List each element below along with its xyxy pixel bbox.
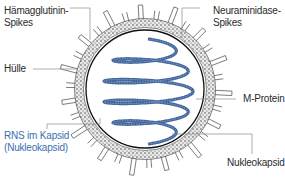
label-rna-line2: (Nukleokapsid) [4, 142, 69, 154]
label-envelope: Hülle [4, 63, 26, 75]
label-rna: RNS im Kapsid (Nukleokapsid) [4, 130, 69, 154]
label-neuraminidase-line2: Spikes [213, 17, 281, 29]
label-hemagglutinin-line2: Spikes [4, 17, 68, 29]
m-protein-layer [86, 30, 204, 148]
label-hemagglutinin: Hämagglutinin- Spikes [4, 5, 68, 29]
label-neuraminidase-line1: Neuraminidase- [213, 5, 281, 17]
label-hemagglutinin-line1: Hämagglutinin- [4, 5, 68, 17]
label-nucleocapsid: Nukleokapsid [227, 157, 285, 169]
label-m-protein: M-Protein [243, 93, 285, 105]
leader-hemagglutinin [70, 8, 90, 40]
label-rna-line1: RNS im Kapsid [4, 130, 69, 142]
label-neuraminidase: Neuraminidase- Spikes [213, 5, 281, 29]
influenza-virus-diagram: Hämagglutinin- Spikes Neuraminidase- Spi… [0, 0, 285, 181]
